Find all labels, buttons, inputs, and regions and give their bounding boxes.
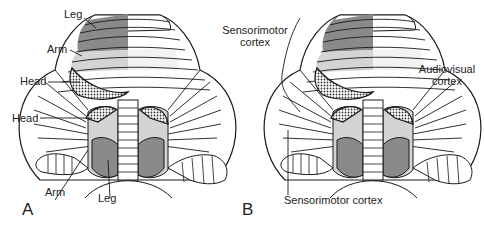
label-sensorimotor-cortex-top: Sensorimotor cortex bbox=[220, 24, 290, 48]
label-head-posterior: Head bbox=[12, 112, 38, 124]
label-sensorimotor-cortex-bottom: Sensorimotor cortex bbox=[284, 194, 382, 206]
label-arm-posterior: Arm bbox=[45, 186, 65, 198]
label-head-anterior: Head bbox=[20, 75, 46, 87]
label-leg-anterior: Leg bbox=[64, 8, 82, 20]
label-sensorimotor-line2: cortex bbox=[240, 36, 270, 48]
label-leg-posterior: Leg bbox=[98, 192, 116, 204]
label-audiovisual-line1: Audiovisual bbox=[419, 63, 475, 75]
label-arm-anterior: Arm bbox=[47, 43, 67, 55]
panel-letter-a: A bbox=[22, 200, 33, 220]
panel-letter-b: B bbox=[242, 200, 253, 220]
label-audiovisual-line2: cortex bbox=[432, 75, 462, 87]
label-audiovisual-cortex: Audiovisual cortex bbox=[414, 63, 480, 87]
label-sensorimotor-line1: Sensorimotor bbox=[222, 24, 287, 36]
cerebellum-somatotopy-figure: Leg Arm Head Head Arm Leg A Sensorimotor… bbox=[0, 0, 484, 225]
